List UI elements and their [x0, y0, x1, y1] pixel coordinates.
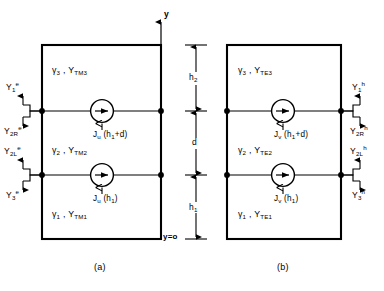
comma: , — [60, 65, 68, 75]
panel-a-admittance-Y2Re: Y2Re — [4, 127, 22, 136]
admittance-sup: e — [16, 80, 20, 87]
current-sub: v — [278, 197, 281, 204]
panel-a-bracket-lower — [23, 160, 42, 190]
arg-tail: ) — [295, 194, 298, 203]
admittance-sub: 1 — [12, 86, 16, 93]
admittance-base: Y — [350, 146, 356, 156]
arg-sub: 1 — [111, 133, 115, 140]
comma: , — [246, 65, 254, 75]
current-sub: u — [97, 197, 101, 204]
panel-b-source-upper-label: Jv (h1+d) — [274, 131, 308, 139]
current-sub: v — [278, 133, 281, 140]
arg-text: (h — [103, 194, 111, 203]
figure-canvas: y y=o γ3 , YTM3 γ2 , YTM2 γ1 , YTM1 Ju (… — [0, 0, 384, 291]
gamma-sub: 2 — [57, 149, 61, 156]
panel-b-medium-middle: γ2 , YTE2 — [238, 146, 272, 155]
admittance-sup: e — [18, 124, 22, 131]
admittance-sub: TE3 — [260, 69, 272, 76]
gamma-symbol: γ — [52, 65, 57, 75]
gamma-symbol: γ — [238, 145, 243, 155]
dim-base: d — [192, 137, 197, 147]
gamma-symbol: γ — [238, 65, 243, 75]
comma: , — [246, 145, 254, 155]
panel-a-source-lower — [91, 164, 114, 194]
admittance-sup: h — [364, 124, 368, 131]
comma: , — [246, 209, 254, 219]
admittance-sup: h — [363, 144, 367, 151]
admittance-base: Y — [352, 82, 358, 92]
admittance-sub: TE2 — [260, 149, 272, 156]
admittance-sub: TM1 — [74, 213, 87, 220]
gamma-symbol: γ — [52, 209, 57, 219]
y-axis-label: y — [164, 10, 169, 19]
arg-text: (h — [284, 194, 292, 203]
dimension-label-h1: h1 — [189, 203, 198, 212]
admittance-sup: e — [16, 188, 20, 195]
dimension-label-h2: h2 — [189, 73, 198, 82]
panel-b-source-lower — [272, 164, 295, 194]
panel-a-source-upper-label: Ju (h1+d) — [93, 131, 127, 139]
arg-sub: 1 — [292, 197, 296, 204]
admittance-sup: h — [362, 188, 366, 195]
comma: , — [60, 209, 68, 219]
panel-a-bracket-upper — [23, 96, 42, 126]
panel-b-caption: (b) — [277, 263, 289, 272]
panel-b-bracket-lower — [341, 160, 360, 190]
comma: , — [60, 145, 68, 155]
dim-sub: 2 — [194, 76, 198, 83]
gamma-sub: 3 — [57, 69, 61, 76]
panel-a-source-lower-label: Ju (h1) — [93, 195, 118, 203]
panel-b-medium-bottom: γ1 , YTE1 — [238, 210, 272, 219]
arg-sub: 1 — [111, 197, 115, 204]
panel-b-medium-top: γ3 , YTE3 — [238, 66, 272, 75]
gamma-symbol: γ — [52, 145, 57, 155]
gamma-sub: 3 — [243, 69, 247, 76]
arg-text: (h — [103, 130, 111, 139]
admittance-sup: e — [17, 144, 21, 151]
dim-sub: 1 — [194, 206, 198, 213]
panel-b-admittance-Y3h: Y3h — [352, 191, 365, 200]
admittance-base: Y — [352, 190, 358, 200]
arg-text: (h — [284, 130, 292, 139]
admittance-base: Y — [4, 126, 10, 136]
panel-a-source-upper — [91, 100, 114, 130]
panel-b-admittance-Y2Lh: Y2Lh — [350, 147, 367, 156]
admittance-sub: 3 — [12, 194, 16, 201]
panel-b-admittance-Y2Rh: Y2Rh — [350, 127, 368, 136]
admittance-sub: 2L — [356, 150, 363, 157]
panel-b-source-upper — [272, 100, 295, 130]
admittance-sub: 3 — [358, 194, 362, 201]
arg-sub: 1 — [292, 133, 296, 140]
panel-b-admittance-Y1h: Y1h — [352, 83, 365, 92]
gamma-symbol: γ — [238, 209, 243, 219]
panel-a-caption: (a) — [94, 263, 106, 272]
panel-a-medium-bottom: γ1 , YTM1 — [52, 210, 87, 219]
admittance-sub: 2L — [10, 150, 17, 157]
gamma-sub: 1 — [57, 213, 61, 220]
y-origin-label: y=o — [163, 233, 178, 241]
panel-b-source-lower-label: Jv (h1) — [274, 195, 298, 203]
admittance-sup: h — [362, 80, 366, 87]
arg-tail: ) — [115, 194, 118, 203]
panel-a-admittance-Y2Le: Y2Le — [4, 147, 21, 156]
panel-b-bracket-upper — [341, 96, 360, 126]
admittance-base: Y — [6, 82, 12, 92]
admittance-sub: 2R — [356, 130, 364, 137]
panel-a-medium-middle: γ2 , YTM2 — [52, 146, 87, 155]
panel-a-medium-top: γ3 , YTM3 — [52, 66, 87, 75]
gamma-sub: 1 — [243, 213, 247, 220]
admittance-base: Y — [6, 190, 12, 200]
current-sub: u — [97, 133, 101, 140]
admittance-sub: 2R — [10, 130, 18, 137]
admittance-base: Y — [4, 146, 10, 156]
admittance-sub: TM3 — [74, 69, 87, 76]
arg-tail: +d) — [295, 130, 308, 139]
admittance-sub: TM2 — [74, 149, 87, 156]
dimension-label-d: d — [192, 138, 197, 147]
panel-a-admittance-Y1e: Y1e — [6, 83, 19, 92]
admittance-base: Y — [350, 126, 356, 136]
arg-tail: +d) — [115, 130, 128, 139]
gamma-sub: 2 — [243, 149, 247, 156]
admittance-sub: TE1 — [260, 213, 272, 220]
panel-a-admittance-Y3e: Y3e — [6, 191, 19, 200]
